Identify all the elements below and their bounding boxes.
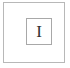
letter-tile[interactable]: I bbox=[26, 18, 52, 45]
letter-i-icon: I bbox=[36, 23, 42, 40]
